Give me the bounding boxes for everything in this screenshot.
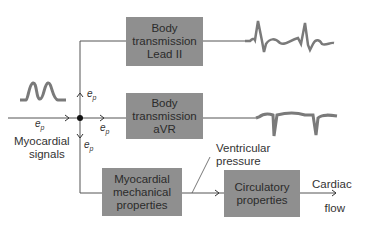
ep-label-up: ep bbox=[87, 88, 96, 101]
lead2-waveform-icon bbox=[245, 21, 334, 52]
label-cardiac-flow: Cardiac flow bbox=[312, 178, 352, 215]
label-myocardial-signals: Myocardial signals bbox=[14, 135, 70, 161]
avr-waveform-icon bbox=[256, 113, 337, 136]
myocardial-waveform-icon bbox=[20, 83, 66, 100]
ep-label-input: ep bbox=[35, 118, 44, 131]
block-circulatory: Circulatory properties bbox=[224, 170, 300, 217]
block-body-transmission-avr: Body transmission aVR bbox=[126, 93, 203, 139]
junction-dot bbox=[77, 115, 83, 121]
ep-label-right: ep bbox=[100, 122, 109, 135]
block-body-transmission-lead2: Body transmission Lead II bbox=[126, 17, 203, 66]
ep-label-down: ep bbox=[84, 139, 93, 152]
label-ventricular-pressure: Ventricular pressure bbox=[216, 142, 270, 168]
block-myocardial-mechanical: Myocardial mechanical properties bbox=[102, 168, 182, 216]
